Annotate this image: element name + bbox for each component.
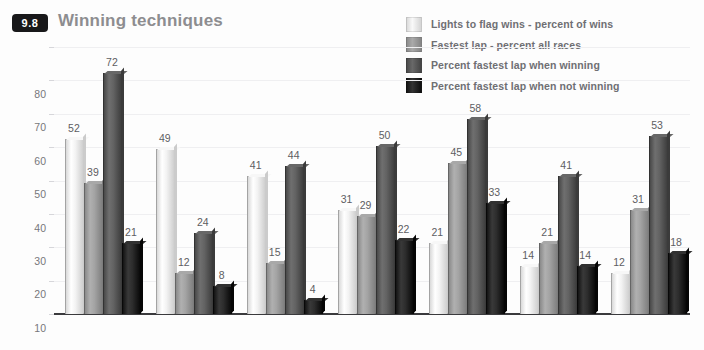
- bar-value-label: 24: [197, 216, 209, 228]
- bar-value-label: 33: [489, 186, 501, 198]
- bar[interactable]: [357, 216, 376, 314]
- bar-side-face: [595, 261, 598, 314]
- bar[interactable]: [429, 243, 448, 314]
- bar-value-label: 12: [178, 256, 190, 268]
- bar-top-face: [66, 137, 90, 140]
- bar-side-face: [231, 281, 234, 314]
- bar-top-face: [305, 298, 329, 301]
- bar[interactable]: [558, 176, 577, 314]
- bar-value-label: 53: [651, 119, 663, 131]
- bar-value-label: 45: [451, 146, 463, 158]
- bar-group: [338, 47, 412, 314]
- bar[interactable]: [65, 139, 84, 314]
- y-axis-tick: [49, 147, 54, 148]
- bar-value-label: 49: [159, 132, 171, 144]
- bar[interactable]: [448, 163, 467, 314]
- bar-side-face: [140, 237, 143, 314]
- y-axis-tick: [49, 247, 54, 248]
- bar-group: [65, 47, 139, 314]
- plot-area: 52397221J Clark4912248A Senna4115444J St…: [54, 47, 690, 314]
- bar[interactable]: [103, 73, 122, 314]
- legend-swatch-icon: [406, 17, 422, 32]
- y-axis-tick: [49, 181, 54, 182]
- bar-side-face: [686, 247, 689, 314]
- bar[interactable]: [338, 210, 357, 314]
- bar-top-face: [248, 174, 272, 177]
- bar-value-label: 29: [360, 199, 372, 211]
- bar-value-label: 21: [125, 226, 137, 238]
- y-axis-tick-label: 80: [34, 88, 46, 100]
- bar-top-face: [104, 71, 128, 74]
- bar-value-label: 31: [341, 193, 353, 205]
- bar-top-face: [396, 238, 420, 241]
- bar-value-label: 4: [310, 283, 316, 295]
- bar[interactable]: [376, 146, 395, 314]
- bar-value-label: 14: [579, 249, 591, 261]
- bar[interactable]: [649, 136, 668, 314]
- bar[interactable]: [630, 210, 649, 314]
- y-axis-tick-label: 70: [34, 121, 46, 133]
- bar[interactable]: [122, 243, 141, 314]
- bar[interactable]: [520, 266, 539, 314]
- bar-value-label: 12: [613, 256, 625, 268]
- bar-value-label: 41: [250, 159, 262, 171]
- bar-value-label: 14: [522, 249, 534, 261]
- bar[interactable]: [611, 273, 630, 314]
- bar[interactable]: [156, 149, 175, 314]
- bar[interactable]: [175, 273, 194, 314]
- bar-side-face: [322, 294, 325, 314]
- bar-value-label: 41: [560, 159, 572, 171]
- section-number-badge: 9.8: [12, 14, 48, 32]
- bar-group: [611, 47, 685, 314]
- bar-value-label: 21: [432, 226, 444, 238]
- y-axis-tick-label: 30: [34, 255, 46, 267]
- bar[interactable]: [213, 286, 232, 314]
- y-axis-tick: [49, 281, 54, 282]
- bar-value-label: 8: [219, 269, 225, 281]
- bar-group: [520, 47, 594, 314]
- bar[interactable]: [285, 166, 304, 314]
- bar-value-label: 39: [87, 166, 99, 178]
- bar[interactable]: [304, 300, 323, 314]
- bar-side-face: [504, 197, 507, 314]
- bar-value-label: 21: [541, 226, 553, 238]
- bar[interactable]: [395, 240, 414, 314]
- bar-value-label: 15: [269, 246, 281, 258]
- bar[interactable]: [84, 183, 103, 314]
- bar-value-label: 58: [470, 102, 482, 114]
- page-title: Winning techniques: [58, 11, 223, 31]
- bar[interactable]: [467, 119, 486, 314]
- bar-top-face: [377, 144, 401, 147]
- y-axis-labels: 01020304050607080: [6, 47, 46, 314]
- bar-value-label: 22: [398, 223, 410, 235]
- bar-group: [429, 47, 503, 314]
- y-axis-tick: [49, 47, 54, 48]
- bar[interactable]: [539, 243, 558, 314]
- y-axis-tick-label: 60: [34, 155, 46, 167]
- bar-top-face: [123, 241, 147, 244]
- bar-top-face: [286, 164, 310, 167]
- y-axis-tick: [49, 114, 54, 115]
- bar[interactable]: [668, 253, 687, 314]
- bar[interactable]: [486, 203, 505, 314]
- legend-item[interactable]: Lights to flag wins - percent of wins: [406, 14, 698, 35]
- legend-label: Lights to flag wins - percent of wins: [431, 18, 613, 30]
- bar-value-label: 50: [379, 129, 391, 141]
- bar-group: [247, 47, 321, 314]
- bar[interactable]: [247, 176, 266, 314]
- bar-value-label: 44: [288, 149, 300, 161]
- bar[interactable]: [194, 233, 213, 314]
- bar-side-face: [413, 234, 416, 314]
- bar-top-face: [157, 147, 181, 150]
- bar-top-face: [195, 231, 219, 234]
- bar-value-label: 18: [670, 236, 682, 248]
- bar-side-face: [303, 161, 306, 314]
- bar-value-label: 31: [632, 193, 644, 205]
- bar[interactable]: [266, 263, 285, 314]
- bar-top-face: [214, 284, 238, 287]
- y-axis-tick-label: 40: [34, 222, 46, 234]
- bar[interactable]: [577, 266, 596, 314]
- chart-page: 9.8 Winning techniques Lights to flag wi…: [0, 0, 704, 350]
- bar-value-label: 52: [68, 122, 80, 134]
- y-axis-tick: [49, 80, 54, 81]
